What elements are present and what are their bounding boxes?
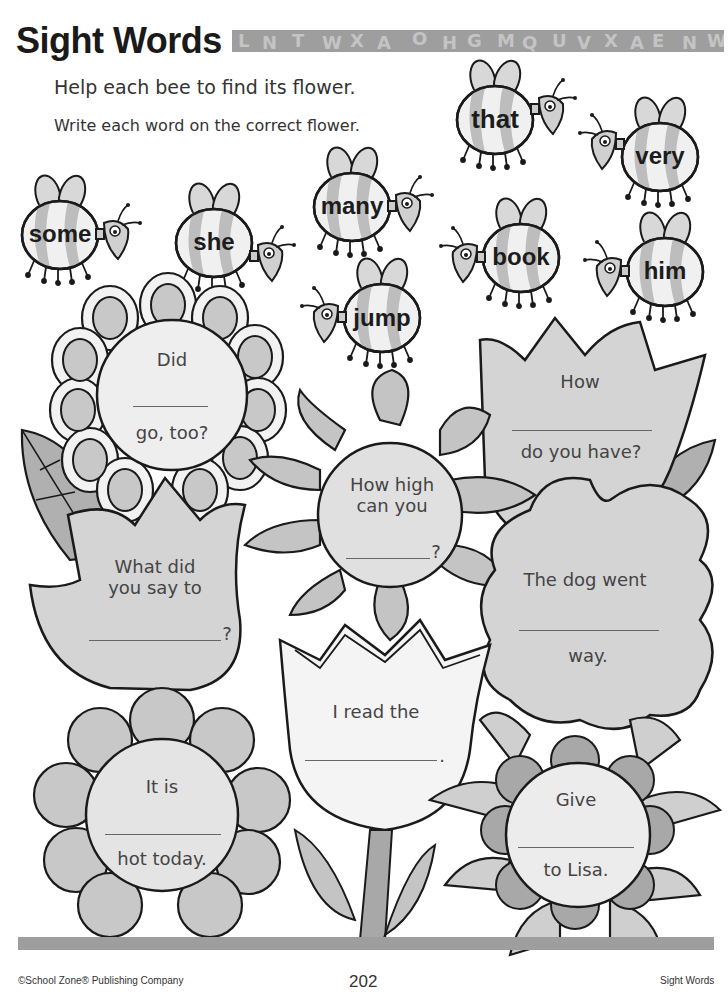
- flower-give-after: to Lisa.: [526, 860, 626, 881]
- flower-dog-blank[interactable]: [519, 630, 659, 631]
- bee-word-jump: jump: [344, 304, 420, 332]
- flower-it-is-after: hot today.: [100, 849, 224, 870]
- flower-read-after: .: [437, 746, 447, 767]
- flower-how-high-after: ?: [430, 542, 442, 563]
- flower-did-blank[interactable]: [133, 406, 208, 407]
- flower-how-high-blank[interactable]: [346, 558, 430, 559]
- footer-publisher: ©School Zone® Publishing Company: [18, 975, 183, 986]
- footer-section: Sight Words: [660, 975, 714, 986]
- flower-dog-after: way.: [550, 646, 626, 667]
- footer-page-number: 202: [349, 972, 377, 992]
- bee-word-many: many: [312, 192, 392, 220]
- flower-read-blank[interactable]: [305, 760, 437, 761]
- flower-dog-before: The dog went: [510, 570, 660, 591]
- flower-what-did-blank[interactable]: [89, 640, 221, 641]
- flower-what-did-after: ?: [221, 624, 233, 645]
- bee-word-him: him: [627, 257, 703, 285]
- flower-what-did-before: What did you say to: [100, 557, 210, 598]
- flower-how-high-before: How high can you: [336, 475, 448, 516]
- flower-how-before: How: [530, 372, 630, 393]
- bee-word-she: she: [176, 228, 252, 256]
- bee-word-that: that: [457, 104, 533, 135]
- flower-it-is-before: It is: [122, 777, 202, 798]
- bee-word-some: some: [18, 220, 102, 248]
- flower-did-after: go, too?: [112, 423, 232, 444]
- flower-how-after: do you have?: [506, 442, 656, 463]
- flower-it-is-blank[interactable]: [105, 834, 221, 835]
- bee-word-very: very: [622, 142, 698, 170]
- flower-read-before: I read the: [316, 702, 436, 723]
- flower-give-blank[interactable]: [518, 847, 634, 848]
- bee-word-book: book: [483, 243, 559, 271]
- flower-give-before: Give: [536, 790, 616, 811]
- flower-did-before: Did: [122, 350, 222, 371]
- flower-how-blank[interactable]: [512, 430, 652, 431]
